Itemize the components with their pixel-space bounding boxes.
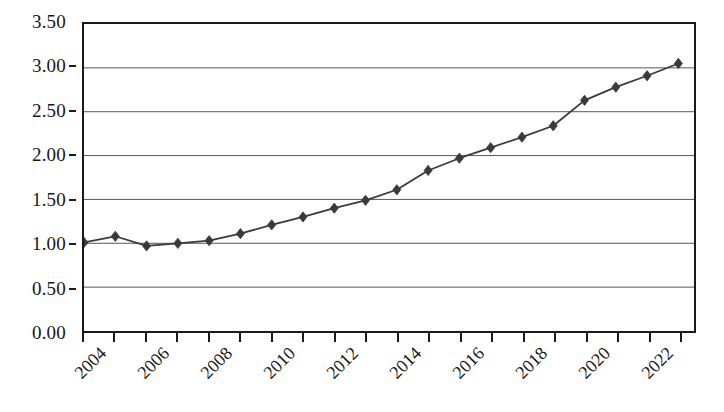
- data-point-marker: [393, 185, 401, 195]
- data-point-marker: [174, 238, 182, 248]
- y-tick-label: 1.50: [32, 189, 66, 211]
- x-tick-mark: [523, 333, 525, 342]
- y-tick-mark: [69, 154, 76, 156]
- data-point-marker: [580, 95, 588, 105]
- y-tick-label: 3.00: [32, 55, 66, 77]
- x-tick-mark: [491, 333, 493, 342]
- data-point-marker: [455, 153, 463, 163]
- x-tick-label: 2004: [71, 343, 111, 383]
- y-tick-label: 2.00: [32, 144, 66, 166]
- x-tick-mark: [460, 333, 462, 342]
- x-tick-mark: [239, 333, 241, 342]
- y-tick-mark: [69, 243, 76, 245]
- plot-area: [82, 22, 696, 333]
- x-tick-label: 2010: [259, 343, 299, 383]
- y-tick-label: 2.50: [32, 100, 66, 122]
- x-tick-label: 2012: [322, 343, 362, 383]
- data-point-marker: [424, 165, 432, 175]
- y-tick-label: 0.00: [32, 322, 66, 344]
- data-point-marker: [84, 237, 88, 247]
- x-tick-label: 2020: [574, 343, 614, 383]
- data-point-marker: [518, 132, 526, 142]
- data-point-marker: [487, 143, 495, 153]
- x-tick-mark: [271, 333, 273, 342]
- x-tick-mark: [208, 333, 210, 342]
- x-tick-mark: [334, 333, 336, 342]
- data-point-marker: [205, 236, 213, 246]
- series-polyline: [84, 63, 678, 245]
- y-tick-label: 0.50: [32, 278, 66, 300]
- x-tick-mark: [397, 333, 399, 342]
- x-tick-mark: [82, 333, 84, 342]
- x-axis-ticks: [82, 333, 696, 343]
- y-tick-label: 1.00: [32, 233, 66, 255]
- y-tick-mark: [69, 110, 76, 112]
- y-axis: 0.000.501.001.502.002.503.003.50: [0, 22, 76, 333]
- data-point-marker: [299, 212, 307, 222]
- x-tick-mark: [302, 333, 304, 342]
- line-chart-figure: 0.000.501.001.502.002.503.003.50 2004200…: [0, 0, 724, 412]
- y-tick-label: 3.50: [32, 11, 66, 33]
- data-point-marker: [362, 195, 370, 205]
- data-point-marker: [674, 58, 682, 68]
- x-tick-label: 2014: [385, 343, 425, 383]
- x-tick-mark: [680, 333, 682, 342]
- data-point-marker: [612, 82, 620, 92]
- x-tick-label: 2006: [134, 343, 174, 383]
- data-point-marker: [643, 71, 651, 81]
- x-tick-mark: [617, 333, 619, 342]
- y-tick-mark: [69, 65, 76, 67]
- x-tick-mark: [113, 333, 115, 342]
- data-point-marker: [143, 241, 151, 251]
- x-tick-label: 2016: [448, 343, 488, 383]
- x-tick-label: 2008: [196, 343, 236, 383]
- x-tick-mark: [428, 333, 430, 342]
- data-point-marker: [330, 203, 338, 213]
- x-tick-label: 2018: [511, 343, 551, 383]
- data-series-line: [84, 24, 694, 331]
- x-tick-mark: [176, 333, 178, 342]
- y-tick-mark: [69, 288, 76, 290]
- data-point-marker: [236, 229, 244, 239]
- x-tick-mark: [649, 333, 651, 342]
- data-point-marker: [111, 231, 119, 241]
- x-tick-mark: [145, 333, 147, 342]
- data-point-marker: [549, 121, 557, 131]
- data-point-marker: [268, 220, 276, 230]
- x-tick-mark: [586, 333, 588, 342]
- x-axis-labels: 2004200620082010201220142016201820202022: [82, 343, 696, 403]
- x-tick-label: 2022: [637, 343, 677, 383]
- x-tick-mark: [365, 333, 367, 342]
- x-tick-mark: [554, 333, 556, 342]
- y-tick-mark: [69, 199, 76, 201]
